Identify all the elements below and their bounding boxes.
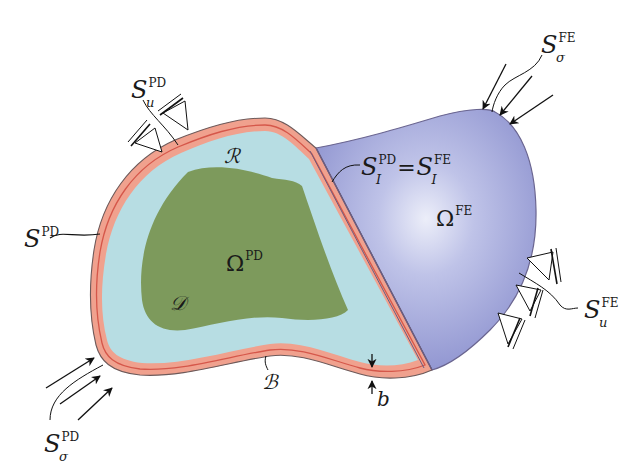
interface-left-sup: PD — [378, 153, 396, 167]
omega-pd-sup: PD — [245, 249, 263, 263]
label-region-d: 𝒟 — [170, 293, 186, 313]
s-pd-sup: PD — [41, 225, 59, 239]
region-r-text: ℛ — [224, 144, 240, 168]
label-s-u-fe: SFEu — [584, 298, 619, 322]
label-omega-fe: ΩFE — [436, 208, 472, 230]
fe-support-3 — [498, 313, 525, 349]
label-boundary-b: ℬ — [262, 372, 278, 392]
label-omega-pd: ΩPD — [226, 253, 263, 275]
region-d-text: 𝒟 — [170, 291, 186, 315]
coupled-domain-diagram — [0, 0, 635, 473]
interface-right-sub: I — [432, 173, 437, 186]
b-leader — [265, 356, 268, 370]
pd-support-1 — [128, 120, 162, 152]
omega-pd-base: Ω — [226, 251, 244, 276]
interface-left-sub: I — [376, 173, 381, 186]
label-s-pd: SPD — [24, 227, 59, 251]
s-sigma-fe-leader — [492, 55, 542, 112]
interface-equals: = — [397, 155, 415, 180]
label-interface: SPDI=SFEI — [361, 155, 451, 179]
s-u-fe-sub: u — [599, 316, 607, 329]
omega-fe-base: Ω — [436, 206, 454, 231]
label-thickness-b: b — [377, 389, 390, 409]
label-region-r: ℛ — [224, 146, 240, 166]
s-u-pd-sub: u — [146, 96, 154, 109]
label-s-sigma-fe: SFEσ — [541, 33, 576, 57]
s-u-pd-base: S — [131, 76, 147, 104]
s-u-fe-base: S — [584, 296, 600, 324]
label-s-u-pd: SPDu — [131, 78, 166, 102]
interface-right-base: S — [417, 153, 433, 181]
interface-right-sup: FE — [434, 153, 451, 167]
s-u-pd-sup: PD — [148, 76, 166, 90]
omega-fe-sup: FE — [455, 204, 472, 218]
s-pd-base: S — [24, 225, 40, 253]
label-s-sigma-pd: SPDσ — [44, 432, 79, 456]
s-sigma-pd-base: S — [44, 430, 60, 458]
boundary-b-text: ℬ — [262, 370, 278, 394]
s-u-fe-sup: FE — [601, 296, 618, 310]
s-sigma-fe-sup: FE — [558, 31, 575, 45]
s-sigma-pd-sup: PD — [61, 430, 79, 444]
pd-traction-arrows — [46, 358, 112, 420]
s-sigma-fe-sub: σ — [556, 51, 565, 64]
interface-left-base: S — [361, 153, 377, 181]
fe-support-2 — [516, 285, 543, 318]
s-sigma-fe-base: S — [541, 31, 557, 59]
s-sigma-pd-sub: σ — [59, 450, 68, 463]
thickness-b-text: b — [377, 387, 390, 411]
